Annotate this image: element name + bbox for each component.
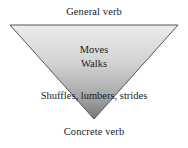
- diagram-level-3-label: Shuffles, lumbers, strides: [0, 90, 188, 102]
- triangle-polygon: [10, 25, 178, 119]
- diagram-level-1-label: Moves: [0, 44, 188, 56]
- diagram-level-2-label: Walks: [0, 58, 188, 70]
- verb-specificity-diagram: General verb Moves Walks Shuffles, lumbe…: [0, 0, 188, 148]
- diagram-bottom-label: Concrete verb: [0, 126, 188, 138]
